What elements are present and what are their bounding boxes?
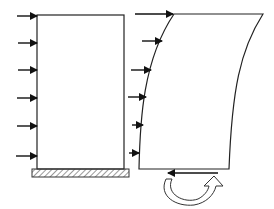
overturning-moment-icon [164,176,223,205]
lateral-load-arrows-right [128,14,173,153]
fixed-base-support [32,169,129,177]
right-wall-group [128,14,263,205]
shear-wall-diagram [0,0,274,209]
undeformed-wall [37,15,124,169]
left-wall-group [16,15,129,177]
deformed-wall [139,14,263,169]
lateral-load-arrows-left [16,16,37,156]
diagram-canvas [0,0,274,209]
